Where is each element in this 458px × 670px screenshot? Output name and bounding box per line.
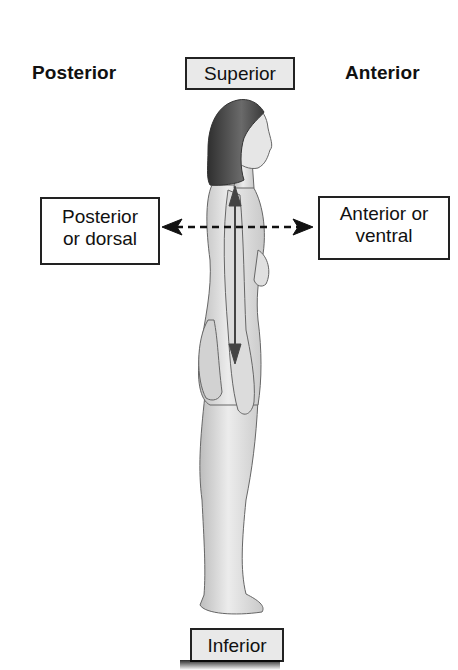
figure-illustration — [0, 0, 458, 670]
bottom-shadow — [180, 660, 280, 670]
